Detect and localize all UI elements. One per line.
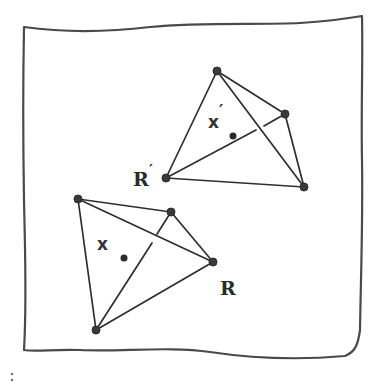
- margin-mark: [11, 379, 14, 382]
- x-label: x: [97, 234, 108, 254]
- edge: [166, 178, 304, 187]
- r-prime-label: R: [133, 168, 149, 190]
- vertex: [300, 183, 308, 191]
- vertex: [162, 174, 170, 182]
- edge: [78, 199, 96, 330]
- vertex: [92, 326, 100, 334]
- hidden-edge: [166, 130, 256, 178]
- center-point: [121, 255, 128, 262]
- diagram-canvas: x ′ R ′ x R: [0, 0, 382, 384]
- edge: [217, 71, 304, 187]
- edge: [285, 114, 304, 187]
- r-label: R: [220, 277, 236, 299]
- margin-mark: [11, 373, 14, 376]
- square-frame: [23, 16, 362, 358]
- edge: [96, 262, 213, 330]
- edge: [171, 212, 213, 262]
- edge: [217, 71, 285, 114]
- vertex: [213, 67, 221, 75]
- vertex: [281, 110, 289, 118]
- center-point: [230, 133, 237, 140]
- vertex: [74, 195, 82, 203]
- lower-tetrahedron: x R: [74, 195, 236, 334]
- r-prime-mark: ′: [149, 161, 153, 179]
- x-prime-label: x: [208, 112, 219, 132]
- upper-tetrahedron: x ′ R ′: [133, 67, 308, 191]
- vertex: [209, 258, 217, 266]
- x-prime-mark: ′: [219, 101, 223, 120]
- vertex: [167, 208, 175, 216]
